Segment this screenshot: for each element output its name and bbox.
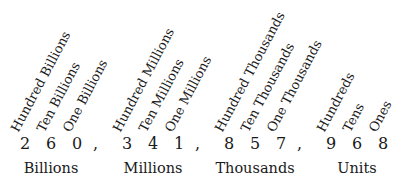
comma-separator: ,: [195, 136, 200, 152]
digit-ten-millions: 4: [146, 136, 160, 152]
group-label-thousands: Thousands: [215, 160, 294, 176]
digit-hundred-thousands: 8: [222, 136, 236, 152]
digit-one-millions: 1: [172, 136, 186, 152]
comma-separator: ,: [297, 136, 302, 152]
place-label-ones: Ones: [367, 98, 394, 134]
group-label-billions: Billions: [24, 160, 79, 176]
digit-ten-billions: 6: [44, 136, 58, 152]
digit-ten-thousands: 5: [248, 136, 262, 152]
group-label-units: Units: [337, 160, 376, 176]
digit-tens: 6: [350, 136, 364, 152]
digit-hundreds: 9: [324, 136, 338, 152]
group-label-millions: Millions: [124, 160, 183, 176]
digit-one-thousands: 7: [274, 136, 288, 152]
place-value-chart: Hundred Billions Ten Billions One Billio…: [0, 0, 409, 187]
digit-ones: 8: [376, 136, 390, 152]
digit-hundred-millions: 3: [120, 136, 134, 152]
place-label-tens: Tens: [341, 101, 367, 134]
digit-one-billions: 0: [70, 136, 84, 152]
digit-hundred-billions: 2: [18, 136, 32, 152]
comma-separator: ,: [93, 136, 98, 152]
